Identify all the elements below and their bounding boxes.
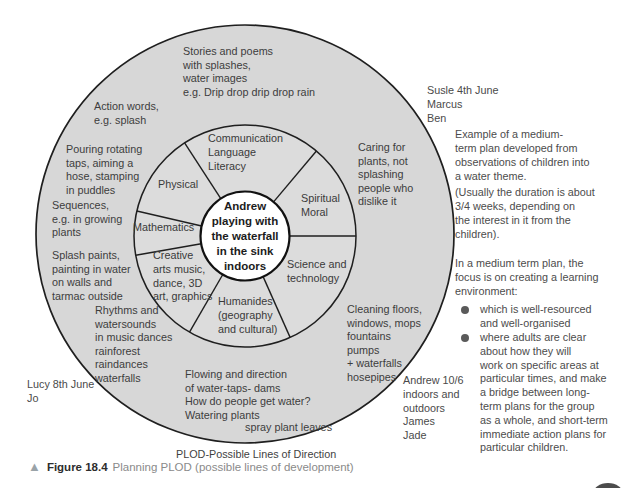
segment-creative-arts: Creative arts music, dance, 3D art, grap…: [153, 249, 212, 304]
note-action-words: Action words, e.g. splash: [94, 100, 159, 127]
book-page: Andrew playing with the waterfall in the…: [0, 0, 623, 488]
page-number-badge: [593, 483, 623, 488]
bullet-adults-clear: where adults are clear about how they wi…: [461, 331, 608, 455]
segment-physical: Physical: [158, 178, 198, 192]
segment-mathematics: Mathematics: [133, 221, 194, 235]
segment-communication-language-literacy: Communication Language Literacy: [208, 132, 283, 173]
note-caring-for-plants: Caring for plants, not splashing people …: [358, 141, 413, 209]
note-rhythms-watersounds: Rhythms and watersounds in music dances …: [95, 304, 172, 386]
margin-note-susie: Susle 4th June Marcus Ben: [427, 84, 498, 125]
bullet-icon: [461, 306, 469, 314]
figure-number: Figure 18.4: [47, 461, 108, 473]
figure-caption-text: Planning PLOD (possible lines of develop…: [113, 461, 354, 473]
margin-note-andrew: Andrew 10/6 indoors and outdoors James J…: [403, 374, 464, 443]
segment-spiritual-moral: Spiritual Moral: [301, 192, 340, 220]
note-stories-and-poems: Stories and poems with splashes, water i…: [183, 45, 315, 99]
note-flowing-direction: Flowing and direction of water-taps- dam…: [185, 368, 310, 422]
figure-marker-icon: ▲: [28, 459, 41, 474]
segment-science-technology: Science and technology: [287, 258, 346, 286]
bullet-text: where adults are clear about how they wi…: [480, 331, 608, 455]
margin-note-lucy: Lucy 8th June Jo: [27, 378, 94, 406]
bullet-icon: [461, 334, 469, 342]
bullet-well-resourced: which is well-resourced and well-organis…: [461, 303, 592, 331]
side-paragraph-duration: (Usually the duration is about 3/4 weeks…: [455, 186, 595, 242]
note-spray-plant-leaves: spray plant leaves: [245, 421, 332, 435]
side-paragraph-focus: In a medium term plan, the focus is on c…: [455, 257, 598, 299]
figure-caption: ▲ Figure 18.4 Planning PLOD (possible li…: [28, 459, 354, 474]
note-sequences: Sequences, e.g. in growing plants: [52, 199, 122, 240]
bullet-text: which is well-resourced and well-organis…: [480, 303, 592, 331]
note-pouring-taps: Pouring rotating taps, aiming a hose, st…: [66, 143, 142, 197]
side-paragraph-example: Example of a medium- term plan developed…: [455, 128, 589, 184]
note-splash-paints: Splash paints, painting in water on wall…: [52, 249, 131, 303]
note-cleaning-floors: Cleaning floors, windows, mops fountains…: [347, 303, 422, 385]
segment-humanities: Humanides (geography and cultural): [218, 295, 277, 336]
